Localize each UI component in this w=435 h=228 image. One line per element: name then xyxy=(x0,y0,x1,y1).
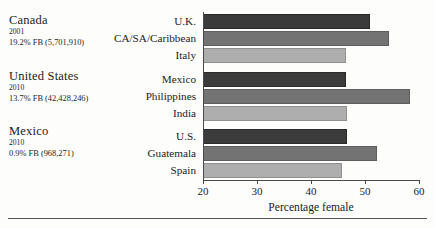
x-tick-label-50: 50 xyxy=(360,185,371,197)
bar-uk xyxy=(203,14,370,29)
category-label-guatemala: Guatemala xyxy=(148,147,196,159)
bar-philippines xyxy=(203,89,410,104)
category-label-india: India xyxy=(173,107,196,119)
x-tick-label-60: 60 xyxy=(414,185,425,197)
plot-area: U.K. CA/SA/Caribbean Italy Mexico Philip… xyxy=(0,0,435,228)
category-label-spain: Spain xyxy=(171,164,196,176)
x-tick-label-30: 30 xyxy=(252,185,263,197)
category-label-italy: Italy xyxy=(175,49,196,61)
x-tick-60 xyxy=(419,180,420,184)
category-label-ca-sa-caribbean: CA/SA/Caribbean xyxy=(114,32,196,44)
bottom-divider-rule xyxy=(8,218,427,219)
x-axis-title: Percentage female xyxy=(203,201,419,214)
category-label-mexico: Mexico xyxy=(162,73,196,85)
bar-us xyxy=(203,129,347,144)
x-tick-label-40: 40 xyxy=(306,185,317,197)
bar-mexico xyxy=(203,72,346,87)
category-label-uk: U.K. xyxy=(174,15,196,27)
x-tick-40 xyxy=(311,180,312,184)
x-tick-50 xyxy=(365,180,366,184)
figure-chart-percentage-female: Canada 2001 19.2% FB (5,701,910) United … xyxy=(0,0,435,228)
x-tick-label-20: 20 xyxy=(198,185,209,197)
bar-ca-sa-caribbean xyxy=(203,31,389,46)
category-label-us: U.S. xyxy=(176,130,196,142)
category-label-philippines: Philippines xyxy=(146,90,196,102)
bar-guatemala xyxy=(203,146,377,161)
x-tick-20 xyxy=(203,180,204,184)
bar-italy xyxy=(203,48,346,63)
bar-spain xyxy=(203,163,342,178)
x-tick-30 xyxy=(257,180,258,184)
bar-india xyxy=(203,106,347,121)
y-axis-line xyxy=(203,12,204,181)
